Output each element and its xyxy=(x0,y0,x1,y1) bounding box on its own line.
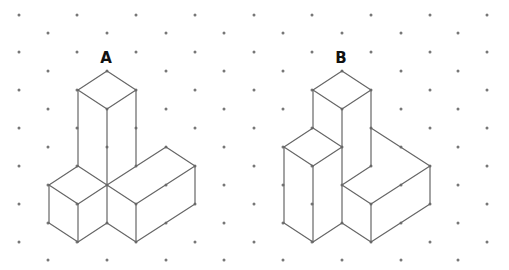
grid-dot xyxy=(341,259,344,262)
grid-dot xyxy=(165,32,168,35)
grid-dot xyxy=(311,14,314,17)
figure-edge xyxy=(284,147,313,166)
grid-dot xyxy=(194,14,197,17)
figure-edge xyxy=(313,90,342,109)
grid-dot xyxy=(253,51,256,54)
grid-dot xyxy=(194,127,197,130)
figure-b-block-shape xyxy=(284,71,430,242)
grid-dot xyxy=(76,14,79,17)
grid-dot xyxy=(135,14,138,17)
figure-edge xyxy=(78,185,107,204)
grid-dot xyxy=(486,51,489,54)
figure-edge xyxy=(107,90,136,109)
figure-edge xyxy=(49,223,78,242)
grid-dot xyxy=(223,222,226,225)
figure-edge xyxy=(49,185,78,204)
grid-dot xyxy=(457,184,460,187)
grid-dot xyxy=(223,108,226,111)
grid-dot xyxy=(165,259,168,262)
grid-dot xyxy=(486,89,489,92)
grid-dot xyxy=(282,259,285,262)
grid-dot xyxy=(370,14,373,17)
figure-edge xyxy=(342,90,371,109)
grid-dot xyxy=(194,241,197,244)
grid-dot xyxy=(282,32,285,35)
isometric-dot-grid-canvas xyxy=(0,0,509,270)
grid-dot xyxy=(253,89,256,92)
grid-dot xyxy=(429,51,432,54)
grid-dot xyxy=(253,241,256,244)
grid-dot xyxy=(165,108,168,111)
figure-edge xyxy=(342,71,371,90)
figure-edge xyxy=(107,71,136,90)
grid-dot xyxy=(223,32,226,35)
figure-b-label: B xyxy=(335,51,346,66)
grid-dot xyxy=(47,32,50,35)
figure-edge xyxy=(107,185,136,204)
grid-dot xyxy=(457,259,460,262)
grid-dot xyxy=(194,51,197,54)
grid-dot xyxy=(370,51,373,54)
figure-edge xyxy=(166,147,195,166)
figure-edge xyxy=(313,223,342,242)
figure-edge xyxy=(313,128,342,147)
figure-edge xyxy=(78,71,107,90)
grid-dot xyxy=(429,127,432,130)
figure-edge xyxy=(78,223,107,242)
figure-edge xyxy=(136,204,195,242)
grid-dot xyxy=(223,146,226,149)
figure-edge xyxy=(49,166,78,185)
grid-dot xyxy=(429,241,432,244)
figure-edge xyxy=(284,128,313,147)
grid-dot xyxy=(486,14,489,17)
grid-dot xyxy=(18,241,21,244)
grid-dot xyxy=(47,146,50,149)
grid-dot xyxy=(106,32,109,35)
grid-dot xyxy=(429,89,432,92)
grid-dots xyxy=(18,14,489,262)
grid-dot xyxy=(282,108,285,111)
grid-dot xyxy=(457,222,460,225)
grid-dot xyxy=(311,51,314,54)
grid-dot xyxy=(106,259,109,262)
grid-dot xyxy=(486,203,489,206)
figure-edge xyxy=(371,166,430,204)
figure-edge xyxy=(136,166,195,204)
grid-dot xyxy=(194,89,197,92)
figure-edge xyxy=(313,147,342,166)
grid-dot xyxy=(76,51,79,54)
figure-edge xyxy=(342,223,371,242)
grid-dot xyxy=(400,32,403,35)
grid-dot xyxy=(253,14,256,17)
grid-dot xyxy=(47,259,50,262)
grid-dot xyxy=(457,146,460,149)
grid-dot xyxy=(18,89,21,92)
grid-dot xyxy=(253,203,256,206)
grid-dot xyxy=(18,127,21,130)
figure-edge xyxy=(284,223,313,242)
grid-dot xyxy=(223,184,226,187)
grid-dot xyxy=(486,241,489,244)
grid-dot xyxy=(457,108,460,111)
figure-edge xyxy=(78,90,107,109)
figure-edge xyxy=(107,223,136,242)
figure-edge xyxy=(371,128,430,166)
grid-dot xyxy=(400,108,403,111)
grid-dot xyxy=(18,165,21,168)
grid-dot xyxy=(253,127,256,130)
figure-edge xyxy=(371,204,430,242)
grid-dot xyxy=(223,259,226,262)
grid-dot xyxy=(18,203,21,206)
grid-dot xyxy=(223,70,226,73)
figure-edge xyxy=(78,166,107,185)
figure-edge xyxy=(342,185,371,204)
grid-dot xyxy=(486,127,489,130)
grid-dot xyxy=(47,108,50,111)
grid-dot xyxy=(47,70,50,73)
grid-dot xyxy=(253,165,256,168)
grid-dot xyxy=(400,259,403,262)
grid-dot xyxy=(165,70,168,73)
grid-dot xyxy=(18,14,21,17)
grid-dot xyxy=(429,14,432,17)
grid-dot xyxy=(400,70,403,73)
